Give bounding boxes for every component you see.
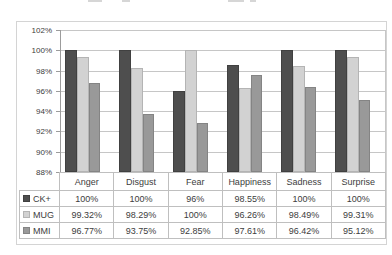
legend-key-mmi-icon	[23, 227, 30, 234]
bar-mmi-anger	[89, 83, 101, 172]
chart-frame: 102%100%98%96%94%92%90%88% AngerDisgustF…	[16, 21, 387, 245]
cropped-text-fragment	[228, 0, 244, 2]
bar-group-disgust	[115, 30, 169, 172]
table-row-mmi: MMI96.77%93.75%92.85%97.61%96.42%95.12%	[20, 223, 386, 239]
bar-group-anger	[61, 30, 115, 172]
value-cell-ck-disgust: 100%	[114, 191, 168, 207]
bar-mug-surprise	[347, 57, 359, 172]
category-header-sadness: Sadness	[277, 173, 331, 191]
value-cell-mug-anger: 99.32%	[60, 207, 114, 223]
table-header-row: AngerDisgustFearHappinessSadnessSurprise	[20, 173, 386, 191]
bar-mmi-disgust	[143, 114, 155, 172]
table-corner-cell	[20, 173, 60, 191]
value-cell-ck-anger: 100%	[60, 191, 114, 207]
category-header-anger: Anger	[60, 173, 114, 191]
bar-mug-disgust	[131, 68, 143, 172]
bar-group-sadness	[277, 30, 331, 172]
bar-mmi-happiness	[251, 75, 263, 173]
bar-ck-anger	[65, 50, 77, 172]
plot-area	[60, 30, 386, 172]
y-axis-tick-label: 98%	[17, 67, 52, 76]
series-name: CK+	[33, 194, 51, 204]
table-row-ck: CK+100%100%96%98.55%100%100%	[20, 191, 386, 207]
y-axis-tick-label: 100%	[17, 46, 52, 55]
category-header-disgust: Disgust	[114, 173, 168, 191]
y-axis-tick-label: 102%	[17, 26, 52, 35]
legend-key-ck-icon	[23, 195, 30, 202]
value-cell-mmi-surprise: 95.12%	[331, 223, 385, 239]
category-header-happiness: Happiness	[222, 173, 276, 191]
series-name: MMI	[33, 226, 51, 236]
bar-group-fear	[169, 30, 223, 172]
value-cell-ck-surprise: 100%	[331, 191, 385, 207]
value-cell-mmi-anger: 96.77%	[60, 223, 114, 239]
value-cell-mmi-sadness: 96.42%	[277, 223, 331, 239]
bar-mmi-fear	[197, 123, 209, 172]
value-cell-mmi-happiness: 97.61%	[222, 223, 276, 239]
table-row-mug: MUG99.32%98.29%100%96.26%98.49%99.31%	[20, 207, 386, 223]
value-cell-mug-happiness: 96.26%	[222, 207, 276, 223]
legend-key-mug-icon	[23, 211, 30, 218]
bar-ck-sadness	[281, 50, 293, 172]
bar-group-surprise	[331, 30, 385, 172]
series-label-mmi: MMI	[20, 223, 60, 239]
cropped-text-fragment	[88, 0, 102, 2]
bar-mug-happiness	[239, 88, 251, 172]
cropped-text-fragment	[122, 0, 130, 2]
cropped-text-fragment	[250, 0, 256, 2]
value-cell-ck-happiness: 98.55%	[222, 191, 276, 207]
bar-ck-disgust	[119, 50, 131, 172]
value-cell-mmi-disgust: 93.75%	[114, 223, 168, 239]
screenshot-root: 102%100%98%96%94%92%90%88% AngerDisgustF…	[0, 0, 392, 255]
value-cell-mug-fear: 100%	[168, 207, 222, 223]
bar-mmi-surprise	[359, 100, 371, 172]
y-axis-tick-label: 94%	[17, 107, 52, 116]
value-cell-mug-surprise: 99.31%	[331, 207, 385, 223]
value-cell-ck-fear: 96%	[168, 191, 222, 207]
series-label-mug: MUG	[20, 207, 60, 223]
value-cell-mmi-fear: 92.85%	[168, 223, 222, 239]
bar-group-happiness	[223, 30, 277, 172]
bar-ck-surprise	[335, 50, 347, 172]
value-cell-mug-disgust: 98.29%	[114, 207, 168, 223]
bars-container	[61, 30, 385, 172]
category-header-fear: Fear	[168, 173, 222, 191]
bar-ck-happiness	[227, 65, 239, 172]
bar-mug-fear	[185, 50, 197, 172]
value-cell-mug-sadness: 98.49%	[277, 207, 331, 223]
value-cell-ck-sadness: 100%	[277, 191, 331, 207]
y-axis-labels: 102%100%98%96%94%92%90%88%	[17, 30, 56, 172]
data-table: AngerDisgustFearHappinessSadnessSurprise…	[19, 172, 386, 239]
category-header-surprise: Surprise	[331, 173, 385, 191]
y-axis-tick-label: 92%	[17, 127, 52, 136]
bar-mug-sadness	[293, 66, 305, 172]
bar-mmi-sadness	[305, 87, 317, 172]
series-name: MUG	[33, 210, 54, 220]
series-label-ck: CK+	[20, 191, 60, 207]
y-axis-tick-label: 96%	[17, 87, 52, 96]
table-body: AngerDisgustFearHappinessSadnessSurprise…	[20, 173, 386, 239]
bar-ck-fear	[173, 91, 185, 172]
y-axis-tick-label: 90%	[17, 148, 52, 157]
bar-mug-anger	[77, 57, 89, 172]
